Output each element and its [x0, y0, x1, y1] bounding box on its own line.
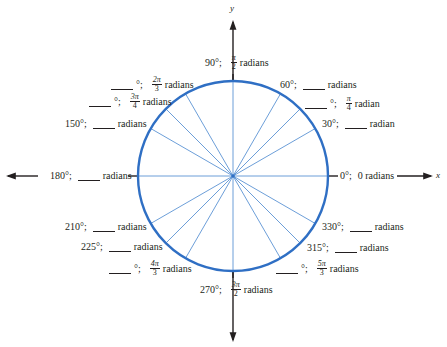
radian-fraction: π2: [231, 54, 237, 71]
blank-degree[interactable]: [276, 264, 298, 274]
origin-point: [231, 174, 235, 178]
deg-text: 210°;: [65, 221, 87, 233]
rad-text: radians: [163, 263, 192, 275]
radian-fraction: 2π3: [152, 76, 162, 93]
label-315-deg: 315°; radians: [307, 242, 389, 254]
deg-text: 330°;: [322, 221, 344, 233]
blank-radian[interactable]: [93, 119, 115, 129]
radian-fraction: 3π2: [231, 281, 241, 298]
spoke-45-deg: [233, 109, 300, 176]
label-180-deg: 180°; radians: [50, 170, 132, 182]
label-90-deg: 90°; π2 radians: [205, 54, 269, 71]
deg-text: °;: [330, 98, 337, 110]
blank-degree[interactable]: [109, 264, 131, 274]
blank-radian[interactable]: [78, 171, 100, 181]
rad-text: 0 radians: [358, 170, 394, 182]
label-0-deg: 0°; 0 radians: [340, 170, 394, 182]
rad-text: radian: [370, 118, 395, 130]
blank-degree[interactable]: [111, 80, 133, 90]
label-150-deg: 150°; radians: [65, 118, 147, 130]
label-210-deg: 210°; radians: [65, 221, 147, 233]
rad-text: radians: [240, 57, 269, 69]
blank-radian[interactable]: [109, 242, 131, 252]
blank-radian[interactable]: [335, 243, 357, 253]
rad-text: radians: [330, 263, 359, 275]
y-axis-label: y: [230, 3, 234, 13]
spoke-210-deg: [151, 176, 233, 224]
blank-radian[interactable]: [350, 222, 372, 232]
deg-text: 150°;: [65, 118, 87, 130]
spoke-315-deg: [233, 176, 300, 243]
spoke-120-deg: [186, 94, 234, 176]
rad-text: radians: [328, 79, 357, 91]
spoke-330-deg: [233, 176, 315, 224]
rad-text: radians: [118, 221, 147, 233]
label-240-deg: °; 4π3 radians: [109, 260, 192, 277]
rad-text: radian: [355, 98, 380, 110]
spoke-150-deg: [151, 129, 233, 177]
blank-degree[interactable]: [89, 97, 111, 107]
radian-fraction: 3π4: [130, 93, 140, 110]
blank-radian[interactable]: [345, 119, 367, 129]
label-60-deg: 60°; radians: [280, 79, 357, 91]
rad-text: radians: [360, 242, 389, 254]
label-330-deg: 330°; radians: [322, 221, 404, 233]
label-135-deg: °; 3π4 radians: [89, 93, 172, 110]
blank-radian[interactable]: [303, 80, 325, 90]
deg-text: 90°;: [205, 57, 222, 69]
deg-text: 60°;: [280, 79, 297, 91]
deg-text: °;: [136, 79, 143, 91]
rad-text: radians: [118, 118, 147, 130]
spoke-60-deg: [233, 94, 281, 176]
rad-text: radians: [165, 79, 194, 91]
spoke-300-deg: [233, 176, 281, 258]
deg-text: 180°;: [50, 170, 72, 182]
deg-text: 30°;: [322, 118, 339, 130]
blank-degree[interactable]: [305, 99, 327, 109]
deg-text: 0°;: [340, 170, 352, 182]
spoke-30-deg: [233, 129, 315, 177]
rad-text: radians: [244, 284, 273, 296]
label-30-deg: 30°; radian: [322, 118, 395, 130]
deg-text: °;: [114, 96, 121, 108]
spoke-225-deg: [166, 176, 233, 243]
label-270-deg: 270°; 3π2 radians: [200, 281, 273, 298]
x-axis-label: x: [436, 170, 440, 180]
blank-radian[interactable]: [93, 222, 115, 232]
rad-text: radians: [103, 170, 132, 182]
spoke-240-deg: [186, 176, 234, 258]
rad-text: radians: [143, 96, 172, 108]
deg-text: 270°;: [200, 284, 222, 296]
radian-fraction: 5π3: [317, 260, 327, 277]
deg-text: 315°;: [307, 242, 329, 254]
deg-text: °;: [134, 263, 141, 275]
label-45-deg: °; π4 radian: [305, 95, 380, 112]
rad-text: radians: [375, 221, 404, 233]
radian-fraction: 4π3: [150, 260, 160, 277]
label-225-deg: 225°; radians: [81, 241, 163, 253]
label-300-deg: °; 5π3 radians: [276, 260, 359, 277]
deg-text: °;: [301, 263, 308, 275]
rad-text: radians: [134, 241, 163, 253]
deg-text: 225°;: [81, 241, 103, 253]
spoke-135-deg: [166, 109, 233, 176]
label-120-deg: °; 2π3 radians: [111, 76, 194, 93]
radian-fraction: π4: [346, 95, 352, 112]
